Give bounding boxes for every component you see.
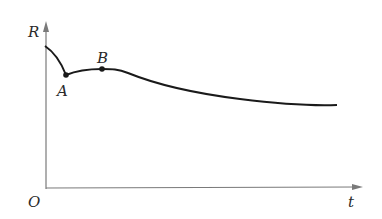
point-b-marker xyxy=(99,66,105,72)
axis-x-label: t xyxy=(348,193,355,211)
point-a-marker xyxy=(63,72,69,78)
y-axis-arrow-icon xyxy=(43,21,49,32)
point-a-label: A xyxy=(55,82,68,100)
point-b-label: B xyxy=(96,49,108,67)
origin-label: O xyxy=(28,193,40,211)
graph-figure: R t O A B xyxy=(0,0,382,219)
axis-y-label: R xyxy=(27,23,39,41)
graph-svg: R t O A B xyxy=(0,0,382,219)
x-axis xyxy=(46,187,356,188)
curve xyxy=(45,46,337,105)
x-axis-arrow-icon xyxy=(352,184,363,190)
